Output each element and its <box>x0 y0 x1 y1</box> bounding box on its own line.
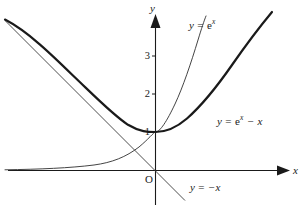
y-tick-label-2: 2 <box>138 89 150 100</box>
math-figure: y x 3 2 1 O y = ex y = ex − x y = −x <box>0 0 307 213</box>
annotation-line-rhs: −x <box>208 181 221 193</box>
y-tick-label-3: 3 <box>138 51 150 62</box>
plot-canvas <box>0 0 307 213</box>
x-axis-arrowhead <box>277 166 290 176</box>
annotation-thick-curve: y = ex − x <box>217 116 263 127</box>
annotation-line-curve: y = −x <box>190 182 221 193</box>
annotation-thick-tail: − x <box>247 115 263 127</box>
curve-exp-minus-x <box>5 12 272 132</box>
y-axis-arrowhead <box>151 14 161 28</box>
annotation-exp-curve: y = ex <box>189 20 216 31</box>
annotation-exp-exponent: x <box>212 17 216 26</box>
origin-label: O <box>145 174 153 185</box>
y-tick-label-1: 1 <box>138 127 150 138</box>
y-axis-label: y <box>150 3 155 14</box>
curve-neg-x <box>5 21 185 201</box>
x-axis-label: x <box>293 165 298 176</box>
